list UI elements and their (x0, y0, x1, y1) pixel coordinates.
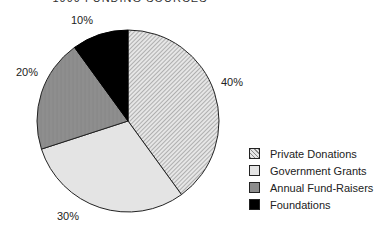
legend-label: Private Donations (270, 148, 357, 160)
swatch-hatched-icon (249, 148, 260, 159)
legend: Private Donations Government Grants Annu… (249, 145, 373, 213)
legend-label: Annual Fund-Raisers (270, 182, 373, 194)
swatch-black-icon (249, 199, 260, 210)
legend-label: Government Grants (270, 165, 367, 177)
swatch-dark-gray-icon (249, 182, 260, 193)
label-foundations-pct: 10% (71, 14, 93, 26)
swatch-light-gray-icon (249, 165, 260, 176)
legend-label: Foundations (270, 199, 331, 211)
legend-item-foundations: Foundations (249, 196, 373, 213)
label-annual-pct: 20% (16, 66, 38, 78)
legend-item-annual-fund-raisers: Annual Fund-Raisers (249, 179, 373, 196)
legend-item-private-donations: Private Donations (249, 145, 373, 162)
label-government-pct: 30% (57, 210, 79, 222)
label-private-pct: 40% (221, 76, 243, 88)
legend-item-government-grants: Government Grants (249, 162, 373, 179)
